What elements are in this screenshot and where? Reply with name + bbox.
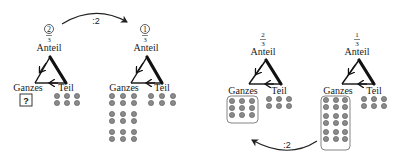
anteil-label: Anteil xyxy=(134,42,159,53)
arrow-head-icon xyxy=(256,65,262,74)
part-whole-triangle xyxy=(342,60,374,84)
teil-label: Teil xyxy=(154,82,170,93)
arrow-head-icon xyxy=(137,63,143,72)
teil-dots xyxy=(54,93,79,105)
part-whole-triangle xyxy=(249,60,281,84)
question-mark: ? xyxy=(23,96,29,106)
ganzes-dots xyxy=(323,97,347,141)
top-division-arrow: :2 xyxy=(62,13,127,26)
ganzes-dots xyxy=(229,98,254,117)
arrow-head-icon xyxy=(40,63,46,72)
ganzes-label: Ganzes xyxy=(228,85,258,96)
ganzes-label: Ganzes xyxy=(109,82,139,93)
ganzes-label: Ganzes xyxy=(323,85,353,96)
anteil-label: Anteil xyxy=(345,46,370,57)
bottom-arrow-label: :2 xyxy=(283,140,291,150)
teil-label: Teil xyxy=(271,85,287,96)
teil-dots xyxy=(361,96,386,108)
fraction-numerator: 1 xyxy=(143,25,147,34)
ganzes-dots xyxy=(109,93,136,141)
panel-2: 1 3 Anteil Ganzes Teil xyxy=(109,25,175,142)
teil-label: Teil xyxy=(366,85,382,96)
panel-3: 2 3 Anteil Ganzes Teil xyxy=(227,31,292,123)
bottom-division-arrow: :2 xyxy=(252,140,317,150)
part-whole-triangle xyxy=(131,57,162,83)
fraction-numerator: 2 xyxy=(261,31,265,39)
teil-dots xyxy=(266,96,291,108)
teil-dots xyxy=(148,93,175,105)
part-whole-triangle xyxy=(35,57,66,83)
anteil-label: Anteil xyxy=(37,42,62,53)
diagram-canvas: :2 :2 2 3 Anteil Ganzes Teil ? 1 xyxy=(0,0,399,160)
teil-label: Teil xyxy=(58,82,74,93)
anteil-label: Anteil xyxy=(251,46,276,57)
ganzes-label: Ganzes xyxy=(13,82,43,93)
fraction-numerator: 1 xyxy=(355,31,359,39)
panel-4: 1 3 Anteil Ganzes Teil xyxy=(321,31,387,150)
panel-1: 2 3 Anteil Ganzes Teil ? xyxy=(13,25,79,107)
arrow-head-icon xyxy=(349,65,355,74)
fraction-numerator: 2 xyxy=(47,25,51,34)
top-arrow-label: :2 xyxy=(92,16,100,26)
